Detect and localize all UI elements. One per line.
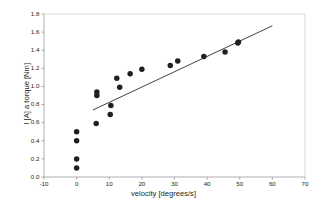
scatter-plot-canvas: [0, 0, 327, 206]
x-tick-label: 10: [94, 181, 124, 187]
chart-figure: 0.00.20.40.60.81.01.21.41.61.8-100102030…: [0, 0, 327, 206]
x-tick-label: 60: [257, 181, 287, 187]
plot-frame: [44, 14, 305, 177]
x-axis-title: velocity [degrees/s]: [0, 190, 327, 198]
y-tick-label: 0.0: [9, 174, 39, 180]
trend-line: [93, 26, 272, 110]
x-tick-label: -10: [29, 181, 59, 187]
x-tick-label: 40: [192, 181, 222, 187]
x-tick-label: 50: [225, 181, 255, 187]
y-tick-label: 1.8: [9, 11, 39, 17]
x-tick-label: 20: [127, 181, 157, 187]
x-tick-label: 0: [62, 181, 92, 187]
data-points: [74, 39, 241, 170]
y-axis-title: I [A] a torque [Nm]: [23, 19, 31, 169]
x-tick-label: 30: [160, 181, 190, 187]
x-tick-label: 70: [290, 181, 320, 187]
axis-ticks: [41, 14, 305, 180]
